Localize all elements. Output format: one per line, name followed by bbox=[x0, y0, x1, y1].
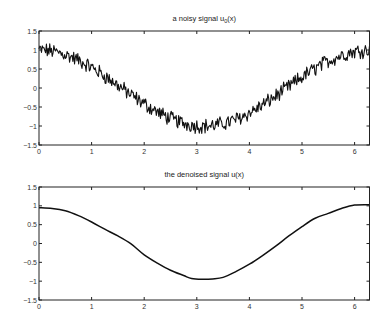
x-tick-label: 5 bbox=[300, 303, 304, 310]
axes-frame bbox=[39, 187, 370, 300]
y-tick-label: −1.5 bbox=[23, 297, 37, 304]
x-tick-label: 5 bbox=[300, 148, 304, 155]
x-tick-label: 6 bbox=[353, 148, 357, 155]
x-tick-label: 4 bbox=[247, 303, 251, 310]
x-tick-label: 4 bbox=[247, 148, 251, 155]
x-tick-label: 2 bbox=[142, 303, 146, 310]
y-tick-label: 0.5 bbox=[27, 66, 37, 73]
series-line bbox=[39, 205, 370, 280]
y-tick-label: 0 bbox=[33, 85, 37, 92]
x-tick-label: 6 bbox=[353, 303, 357, 310]
plot-title: the denoised signal u(x) bbox=[164, 170, 244, 179]
x-tick-label: 0 bbox=[37, 148, 41, 155]
y-tick-label: −1.5 bbox=[23, 142, 37, 149]
x-tick-label: 3 bbox=[195, 303, 199, 310]
plot-title: a noisy signal u0(x) bbox=[172, 14, 236, 24]
y-tick-label: 1.5 bbox=[27, 28, 37, 35]
x-tick-label: 1 bbox=[90, 303, 94, 310]
x-tick-label: 0 bbox=[37, 303, 41, 310]
y-tick-label: −1 bbox=[29, 123, 37, 130]
figure: a noisy signal u0(x)01234561.510.50−0.5−… bbox=[0, 0, 391, 324]
noisy-signal-plot: a noisy signal u0(x)01234561.510.50−0.5−… bbox=[23, 14, 369, 155]
y-tick-label: 0.5 bbox=[27, 221, 37, 228]
y-tick-label: 1 bbox=[33, 47, 37, 54]
y-tick-label: −0.5 bbox=[23, 104, 37, 111]
x-tick-label: 2 bbox=[142, 148, 146, 155]
y-tick-label: 0 bbox=[33, 240, 37, 247]
y-tick-label: 1 bbox=[33, 202, 37, 209]
series-line bbox=[39, 44, 370, 134]
x-tick-label: 3 bbox=[195, 148, 199, 155]
y-tick-label: −0.5 bbox=[23, 259, 37, 266]
x-tick-label: 1 bbox=[90, 148, 94, 155]
y-tick-label: 1.5 bbox=[27, 184, 37, 191]
denoised-signal-plot: the denoised signal u(x)01234561.510.50−… bbox=[23, 170, 369, 310]
y-tick-label: −1 bbox=[29, 278, 37, 285]
